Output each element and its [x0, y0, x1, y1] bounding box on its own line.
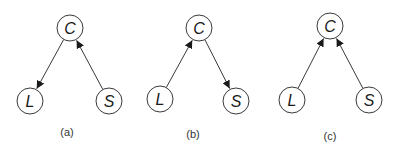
edge-l-to-c — [298, 38, 324, 88]
edge-l-to-c — [166, 40, 192, 87]
edge-c-to-s — [205, 40, 230, 89]
panel-c: CLS(c) — [279, 13, 382, 142]
edge-s-to-c — [77, 40, 103, 89]
edge-c-to-l — [37, 39, 64, 88]
panel-caption: (a) — [60, 126, 73, 138]
node-l: L — [17, 88, 43, 114]
edge-s-to-c — [337, 38, 363, 88]
node-label: C — [324, 18, 336, 35]
panel-caption: (b) — [186, 128, 199, 140]
panel-a: CLS(a) — [17, 15, 122, 138]
panel-caption: (c) — [324, 130, 337, 142]
diagram-panels: CLS(a)CLS(b)CLS(c) — [17, 13, 382, 142]
diagram-canvas: CLS(a)CLS(b)CLS(c) — [0, 0, 403, 157]
node-c: C — [317, 13, 343, 39]
node-label: S — [231, 93, 242, 110]
node-c: C — [186, 15, 212, 41]
node-label: S — [104, 93, 115, 110]
panel-b: CLS(b) — [147, 15, 249, 140]
node-label: S — [364, 92, 375, 109]
node-label: L — [288, 92, 297, 109]
node-s: S — [96, 88, 122, 114]
node-c: C — [57, 15, 83, 41]
node-l: L — [147, 86, 173, 112]
node-label: C — [193, 20, 205, 37]
node-l: L — [279, 87, 305, 113]
node-s: S — [356, 87, 382, 113]
node-label: L — [26, 93, 35, 110]
node-s: S — [223, 88, 249, 114]
node-label: C — [64, 20, 76, 37]
node-label: L — [156, 91, 165, 108]
